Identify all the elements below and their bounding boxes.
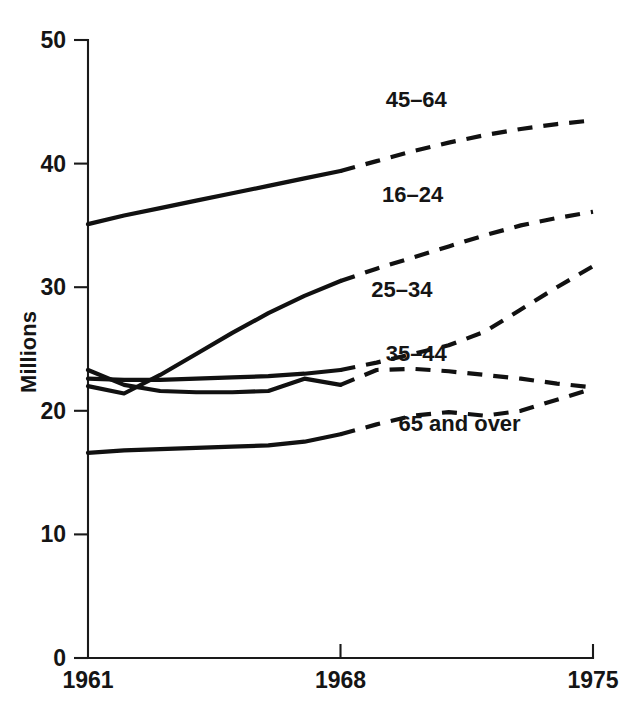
y-tick-label-50: 50 (40, 27, 66, 53)
series-line-projected-45-64 (341, 120, 594, 171)
x-tick-label-1975: 1975 (567, 667, 618, 693)
y-axis-title: Millions (16, 311, 41, 393)
series-label-65 and over: 65 and over (398, 411, 521, 436)
y-tick-label-10: 10 (40, 521, 66, 547)
y-tick-label-40: 40 (40, 151, 66, 177)
series-line-actual-45-64 (88, 171, 341, 224)
data-series-group (88, 120, 593, 452)
y-tick-label-20: 20 (40, 398, 66, 424)
series-label-25-34: 25–34 (371, 277, 433, 302)
series-label-16-24: 16–24 (382, 182, 444, 207)
series-labels-group: 45–6416–2425–3435–4465 and over (371, 87, 521, 436)
series-line-actual-65 and over (88, 434, 341, 453)
series-label-45-64: 45–64 (386, 87, 448, 112)
y-tick-label-30: 30 (40, 274, 66, 300)
x-tick-label-1968: 1968 (315, 667, 366, 693)
series-label-35-44: 35–44 (386, 341, 448, 366)
y-axis-ticks: 01020304050 (40, 27, 88, 671)
axes (88, 40, 593, 658)
series-line-projected-16-24 (341, 212, 594, 281)
x-axis-ticks: 196119681975 (62, 644, 618, 693)
x-tick-label-1961: 1961 (62, 667, 113, 693)
series-line-projected-35-44 (341, 369, 594, 388)
chart-canvas: 01020304050 196119681975 45–6416–2425–34… (0, 0, 635, 706)
line-chart-figure: 01020304050 196119681975 45–6416–2425–34… (0, 0, 635, 706)
